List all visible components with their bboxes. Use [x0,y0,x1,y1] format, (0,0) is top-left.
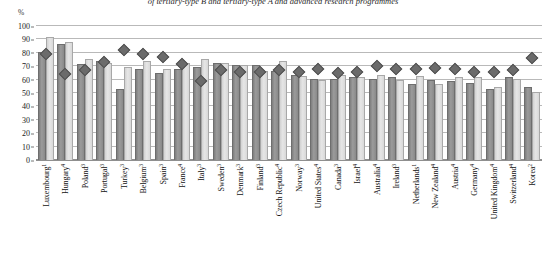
x-label-cell: Ireland3 [386,162,405,258]
x-label-footnote: 4 [371,164,377,167]
bar-group [55,26,74,160]
x-label-footnote: 3 [79,164,85,167]
bar-dark [524,87,532,160]
bar-light [513,79,521,160]
bar-light [357,77,365,160]
bar-dark [427,80,435,160]
bar-light [338,75,346,160]
bar-group [309,26,328,160]
bar-light [396,80,404,160]
x-label-footnote: 4 [449,164,455,167]
x-category-label: Korea2 [527,164,538,186]
y-tick-100: 100 [18,22,30,31]
y-tick-20: 20 [22,129,30,138]
x-label-cell: Turkey3 [114,162,133,258]
bar-light [299,76,307,160]
x-category-label: Turkey3 [118,164,129,189]
x-label-cell: Canada3 [328,162,347,258]
x-label-footnote: 3 [118,164,124,167]
x-label-footnote: 4 [313,164,319,167]
x-category-label: Australia4 [371,164,382,195]
x-label-cell: Spain3 [153,162,172,258]
bar-dark [174,69,182,160]
diamond-marker [429,61,442,74]
bar-group [464,26,483,160]
bar-dark [38,52,46,160]
diamond-marker [468,65,481,78]
x-category-label: Netherlands1 [410,164,421,204]
x-category-label: Sweden3 [216,164,227,191]
y-tick-90: 90 [22,35,30,44]
x-label-cell: New Zealand4 [425,162,444,258]
bar-light [260,71,268,160]
x-category-label: Ireland3 [391,164,402,189]
bar-group [133,26,152,160]
x-label-footnote: 4 [274,164,280,167]
bar-group [114,26,133,160]
bar-group [153,26,172,160]
bar-group [172,26,191,160]
bar-group [36,26,55,160]
bar-group [503,26,522,160]
bar-dark [466,83,474,160]
bar-group [386,26,405,160]
x-label-footnote: 3 [332,164,338,167]
x-label-cell: Austria4 [445,162,464,258]
x-category-label: United Kingdom4 [488,164,499,219]
bar-group [231,26,250,160]
bar-light [124,67,132,160]
x-category-label: Italy3 [196,164,207,181]
bar-light [279,61,287,160]
x-label-cell: Switzerland4 [503,162,522,258]
bar-light [474,77,482,160]
y-tick-50: 50 [22,89,30,98]
bar-group [94,26,113,160]
bar-group [250,26,269,160]
x-label-footnote: 3 [138,164,144,167]
x-category-label: Czech Republic4 [274,164,285,216]
diamond-marker [390,63,403,76]
x-category-label: France4 [177,164,188,188]
bar-group [523,26,542,160]
bar-groups [36,26,542,160]
x-category-label: Germany4 [469,164,480,196]
bar-light [221,63,229,160]
diamond-marker [117,44,130,57]
x-label-cell: Hungary4 [55,162,74,258]
x-label-footnote: 4 [352,164,358,167]
bar-group [425,26,444,160]
x-label-cell: Netherlands1 [406,162,425,258]
bar-dark [310,79,318,160]
bar-dark [271,71,279,160]
bar-dark [505,77,513,160]
x-category-label: New Zealand4 [430,164,441,208]
x-category-label: Finland3 [255,164,266,190]
bar-group [192,26,211,160]
x-label-cell: Poland3 [75,162,94,258]
x-label-cell: United Kingdom4 [484,162,503,258]
bar-light [143,61,151,160]
bar-group [367,26,386,160]
x-label-cell: Norway3 [289,162,308,258]
bar-light [532,92,540,160]
x-category-label: Denmark3 [235,164,246,196]
bar-dark [155,73,163,160]
bar-light [65,42,73,160]
bar-dark [57,44,65,160]
x-label-cell: Luxembourg1 [36,162,55,258]
chart-title: of tertiary-type B and tertiary-type A a… [0,0,546,6]
bar-light [163,69,171,160]
bar-light [377,75,385,160]
x-label-footnote: 3 [99,164,105,167]
y-tick-80: 80 [22,48,30,57]
diamond-marker [448,63,461,76]
bar-dark [388,77,396,160]
x-category-label: Canada3 [332,164,343,190]
x-label-footnote: 4 [508,164,514,167]
bar-dark [135,69,143,160]
bar-light [455,77,463,160]
bar-light [435,84,443,160]
x-label-footnote: 3 [157,164,163,167]
x-label-footnote: 1 [410,164,416,167]
x-label-cell: United States4 [309,162,328,258]
